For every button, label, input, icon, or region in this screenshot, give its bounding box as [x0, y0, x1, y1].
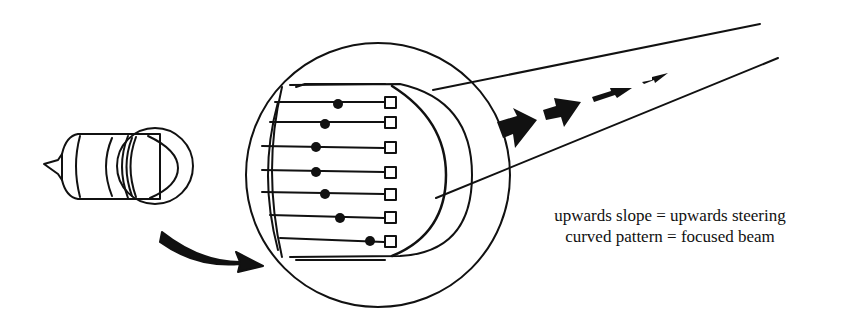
array-elements	[262, 97, 396, 247]
caption-steering: upwards slope = upwards steering	[500, 205, 840, 226]
phased-array-diagram	[0, 0, 855, 322]
zoom-arrow-icon	[160, 232, 263, 272]
caption-focusing: curved pattern = focused beam	[500, 226, 840, 247]
beam-arrows-icon	[497, 108, 537, 148]
beam-upper-edge	[433, 24, 760, 90]
transducer-probe-icon	[44, 128, 193, 204]
